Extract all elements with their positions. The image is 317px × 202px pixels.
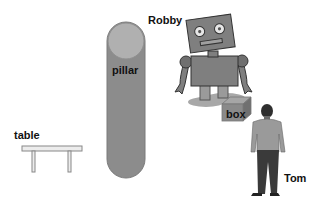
pillar [107,22,145,178]
person-tom [251,104,285,196]
label-table: table [14,129,40,141]
table [22,146,82,172]
label-robby: Robby [148,14,182,26]
scene: Robby pillar box table Tom [0,0,317,202]
robot-robby [175,14,252,107]
label-tom: Tom [284,172,306,184]
scene-drawing [0,0,317,202]
label-pillar: pillar [112,64,138,76]
label-box: box [226,108,246,120]
